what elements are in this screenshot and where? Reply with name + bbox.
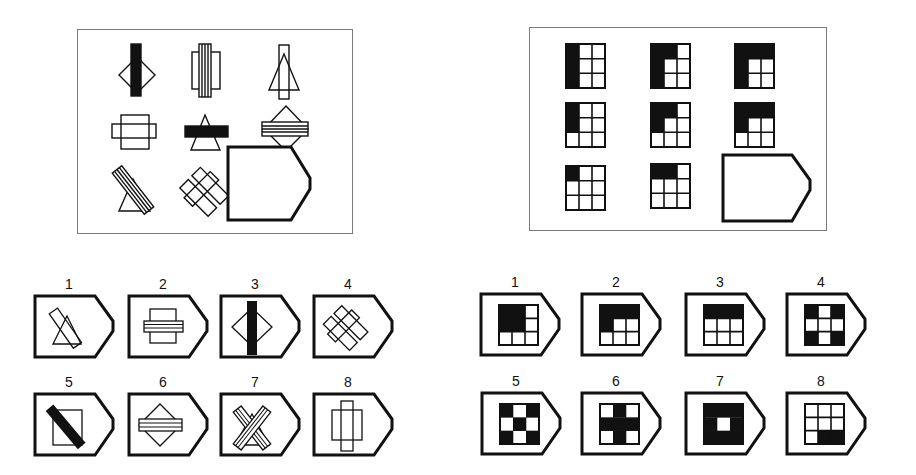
left-option-2[interactable]: 2 xyxy=(127,276,211,360)
option-figure-grid-top-row-black xyxy=(684,292,768,358)
option-number: 8 xyxy=(779,373,863,389)
option-number: 4 xyxy=(779,274,863,290)
option-figure-grid-ring-black xyxy=(684,391,768,457)
option-figure-grid-corners-black xyxy=(785,292,869,358)
right-option-2[interactable]: 2 xyxy=(580,274,664,358)
left-option-3[interactable]: 3 xyxy=(219,276,303,360)
option-figure-rectangle-with-outline-vertical-bar xyxy=(312,392,396,458)
option-figure-grid-corners-and-center-black xyxy=(480,391,564,457)
option-figure-triangle-with-two-striped-crossed-bars xyxy=(219,392,303,458)
option-figure-grid-top-row-and-left-middle-black xyxy=(580,292,664,358)
option-figure-grid-cross-black xyxy=(580,391,664,457)
option-figure-square-with-black-diagonal-bar xyxy=(33,392,117,458)
option-figure-diamond-with-striped-horizontal-bar xyxy=(127,392,211,458)
option-number: 2 xyxy=(121,276,205,292)
left-matrix-panel xyxy=(77,29,353,234)
right-matrix-figures xyxy=(530,28,828,232)
left-option-8[interactable]: 8 xyxy=(312,374,396,458)
option-number: 8 xyxy=(306,374,390,390)
option-figure-diamond-with-black-vertical-bar xyxy=(219,294,303,360)
option-number: 3 xyxy=(678,274,762,290)
option-number: 6 xyxy=(574,373,658,389)
right-option-1[interactable]: 1 xyxy=(479,274,563,358)
option-figure-triangle-with-outline-diagonal-bar xyxy=(33,294,117,360)
option-number: 6 xyxy=(121,374,205,390)
right-option-3[interactable]: 3 xyxy=(684,274,768,358)
figure-diamond-black-bar xyxy=(119,44,155,96)
right-matrix-panel xyxy=(529,27,827,231)
option-number: 5 xyxy=(474,373,558,389)
left-option-5[interactable]: 5 xyxy=(33,374,117,458)
left-option-1[interactable]: 1 xyxy=(33,276,117,360)
option-number: 3 xyxy=(213,276,297,292)
option-figure-grid-top-left-2x2-black xyxy=(479,292,563,358)
option-number: 1 xyxy=(27,276,111,292)
missing-slot xyxy=(228,147,310,220)
option-number: 7 xyxy=(678,373,762,389)
right-option-4[interactable]: 4 xyxy=(785,274,869,358)
left-option-6[interactable]: 6 xyxy=(127,374,211,458)
option-number: 1 xyxy=(473,274,557,290)
left-matrix-figures xyxy=(78,30,354,235)
option-number: 7 xyxy=(213,374,297,390)
option-number: 4 xyxy=(306,276,390,292)
right-option-6[interactable]: 6 xyxy=(580,373,664,457)
right-option-5[interactable]: 5 xyxy=(480,373,564,457)
missing-slot xyxy=(723,155,810,221)
left-option-7[interactable]: 7 xyxy=(219,374,303,458)
option-figure-grid-bottom-right-two-black xyxy=(785,391,869,457)
option-number: 5 xyxy=(27,374,111,390)
option-figure-two-diagonal-outline-bars-crossed xyxy=(312,294,396,360)
right-option-8[interactable]: 8 xyxy=(785,373,869,457)
left-option-4[interactable]: 4 xyxy=(312,276,396,360)
option-figure-square-with-striped-horizontal-bar xyxy=(127,294,211,360)
option-number: 2 xyxy=(574,274,658,290)
right-option-7[interactable]: 7 xyxy=(684,373,768,457)
